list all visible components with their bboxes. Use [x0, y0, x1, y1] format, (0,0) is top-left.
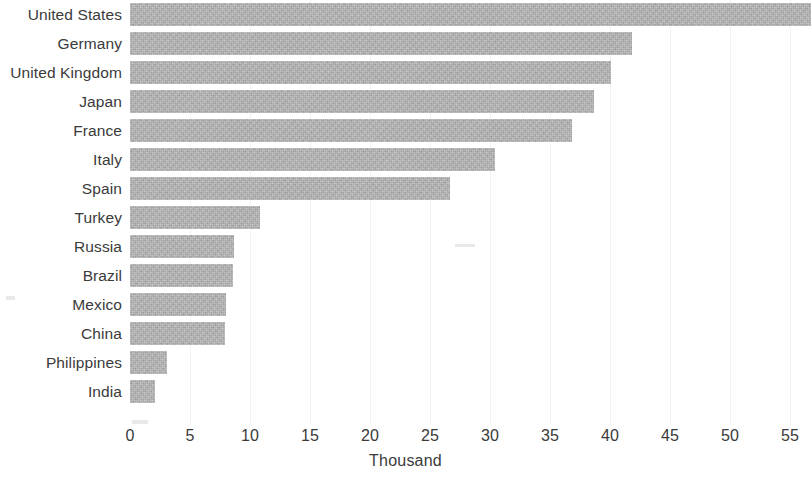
- bar: [130, 351, 167, 374]
- category-label: Germany: [58, 29, 122, 58]
- x-tick-label: 5: [186, 427, 195, 445]
- bar-row: United States: [0, 0, 811, 29]
- category-label: China: [81, 319, 122, 348]
- x-tick-label: 20: [361, 427, 379, 445]
- bar-row: Mexico: [0, 290, 811, 319]
- category-label: France: [73, 116, 122, 145]
- bar: [130, 148, 495, 171]
- bar: [130, 206, 260, 229]
- x-tick-label: 15: [301, 427, 319, 445]
- bar: [130, 264, 233, 287]
- x-axis-title: Thousand: [0, 452, 811, 470]
- bar-row: Russia: [0, 232, 811, 261]
- bar: [130, 61, 611, 84]
- category-label: Philippines: [46, 348, 122, 377]
- bar-row: Brazil: [0, 261, 811, 290]
- bar: [130, 177, 450, 200]
- bar: [130, 3, 811, 26]
- bar: [130, 293, 226, 316]
- bar-row: United Kingdom: [0, 58, 811, 87]
- bar: [130, 90, 594, 113]
- bar: [130, 235, 234, 258]
- category-label: United States: [28, 0, 122, 29]
- x-tick-label: 10: [241, 427, 259, 445]
- bar-row: France: [0, 116, 811, 145]
- x-tick-label: 25: [421, 427, 439, 445]
- bar-row: Spain: [0, 174, 811, 203]
- bar: [130, 32, 632, 55]
- bar-row: Japan: [0, 87, 811, 116]
- bar-row: Germany: [0, 29, 811, 58]
- bar: [130, 380, 155, 403]
- x-tick-label: 40: [601, 427, 619, 445]
- category-label: Japan: [79, 87, 122, 116]
- category-label: Italy: [93, 145, 122, 174]
- category-label: United Kingdom: [10, 58, 122, 87]
- x-tick-label: 45: [661, 427, 679, 445]
- bar-row: China: [0, 319, 811, 348]
- bar-row: Philippines: [0, 348, 811, 377]
- x-axis: 0510152025303540455055 Thousand: [0, 425, 811, 478]
- category-label: Russia: [74, 232, 122, 261]
- bar: [130, 119, 572, 142]
- category-label: Brazil: [83, 261, 122, 290]
- x-tick-label: 0: [126, 427, 135, 445]
- category-label: Mexico: [72, 290, 122, 319]
- x-tick-label: 55: [781, 427, 799, 445]
- category-label: Turkey: [75, 203, 122, 232]
- bar-row: India: [0, 377, 811, 406]
- x-tick-label: 30: [481, 427, 499, 445]
- bar-row: Italy: [0, 145, 811, 174]
- bar-chart: United StatesGermanyUnited KingdomJapanF…: [0, 0, 811, 478]
- plot-area: United StatesGermanyUnited KingdomJapanF…: [0, 0, 811, 425]
- x-tick-label: 35: [541, 427, 559, 445]
- bar: [130, 322, 225, 345]
- x-tick-label: 50: [721, 427, 739, 445]
- category-label: India: [88, 377, 122, 406]
- category-label: Spain: [82, 174, 122, 203]
- bar-row: Turkey: [0, 203, 811, 232]
